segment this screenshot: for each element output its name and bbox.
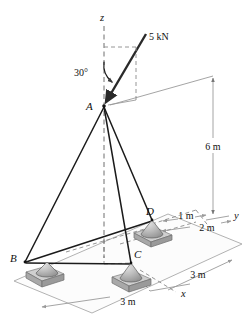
dim-label-base-right: 3 m (190, 269, 206, 280)
force-label-5kn: 5 kN (149, 31, 169, 42)
dim-leader-from-a (110, 76, 213, 105)
axis-z-label: z (99, 12, 104, 23)
joint-label-B: B (10, 252, 17, 264)
dim-label-base-front: 3 m (120, 296, 136, 307)
axis-z: z (99, 12, 104, 258)
member-B-C (26, 263, 131, 264)
joint-label-A: A (85, 100, 93, 112)
member-A-B (25, 107, 104, 262)
figure-root: 3 m 3 m x y 1 m 2 m (0, 0, 247, 323)
support-B-node (24, 261, 27, 264)
force-proj-base (108, 100, 136, 105)
support-D-node (151, 219, 154, 222)
dim-label-height-text: 6 m (205, 141, 221, 152)
statics-truss-diagram: 3 m 3 m x y 1 m 2 m (0, 0, 247, 323)
angle-arc-30 (104, 62, 112, 82)
dim-label-1m: 1 m (178, 210, 194, 221)
joint-label-C: C (134, 248, 142, 260)
member-A-D (104, 107, 152, 220)
angle-30-degrees: 30° (74, 62, 112, 82)
support-C-node (130, 262, 133, 265)
dimension-height: 6 m 6 m (110, 76, 227, 214)
axis-y: y (206, 210, 239, 221)
axis-y-label: y (233, 210, 239, 221)
joint-A-node (102, 104, 106, 108)
applied-load-5kn: 5 kN (104, 31, 169, 105)
axis-y-line (206, 216, 229, 220)
joint-label-D: D (145, 205, 154, 217)
angle-label-30: 30° (74, 67, 88, 78)
force-line-5kn (106, 34, 146, 102)
dim-line-2m-right (221, 221, 231, 223)
axis-x-label: x (180, 288, 186, 299)
